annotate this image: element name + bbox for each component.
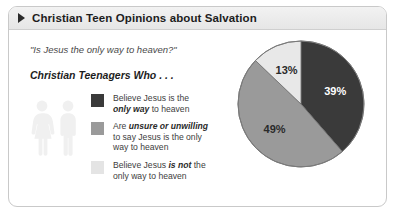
legend-label: Are unsure or unwilling to say Jesus is … xyxy=(113,121,208,153)
legend-line1-emphasis: is not xyxy=(168,160,191,170)
subhead-text: Christian Teenagers Who . . . xyxy=(30,69,174,81)
legend-item-believe-only-way: Believe Jesus is the only way to heaven xyxy=(91,93,231,114)
chart-legend: Believe Jesus is the only way to heaven … xyxy=(91,93,231,188)
page-title: Christian Teen Opinions about Salvation xyxy=(32,12,257,24)
legend-line2-text: to heaven xyxy=(149,104,189,114)
legend-line2-text: only way to heaven xyxy=(113,171,187,181)
legend-line2-text: to say Jesus is the only xyxy=(113,132,202,142)
legend-item-not-only-way: Believe Jesus is not the only way to hea… xyxy=(91,160,231,181)
pie-slice-label: 49% xyxy=(264,123,286,135)
legend-item-unsure-unwilling: Are unsure or unwilling to say Jesus is … xyxy=(91,121,231,153)
legend-line1-emphasis: unsure or unwilling xyxy=(129,121,208,131)
legend-line3-text: way to heaven xyxy=(113,142,168,152)
question-text: "Is Jesus the only way to heaven?" xyxy=(30,44,177,55)
pie-slices xyxy=(238,41,364,167)
legend-line1-text: Are xyxy=(113,121,129,131)
legend-swatch-light xyxy=(91,161,104,174)
legend-line2-emphasis: only way xyxy=(113,104,149,114)
two-people-icon xyxy=(27,97,83,159)
pie-chart: 39%49%13% xyxy=(231,34,371,174)
legend-swatch-gray xyxy=(91,122,104,135)
legend-label: Believe Jesus is not the only way to hea… xyxy=(113,160,206,181)
card-body: "Is Jesus the only way to heaven?" Chris… xyxy=(9,31,386,206)
legend-line1-suffix: the xyxy=(191,160,205,170)
legend-swatch-dark xyxy=(91,94,104,107)
pie-slice-label: 39% xyxy=(324,85,346,97)
chart-card: Christian Teen Opinions about Salvation … xyxy=(8,6,387,207)
card-header: Christian Teen Opinions about Salvation xyxy=(9,7,386,30)
legend-line1-text: Believe Jesus xyxy=(113,160,168,170)
triangle-right-icon xyxy=(18,13,25,23)
pie-slice-label: 13% xyxy=(276,64,298,76)
legend-label: Believe Jesus is the only way to heaven xyxy=(113,93,189,114)
legend-line1-text: Believe Jesus is the xyxy=(113,93,189,103)
